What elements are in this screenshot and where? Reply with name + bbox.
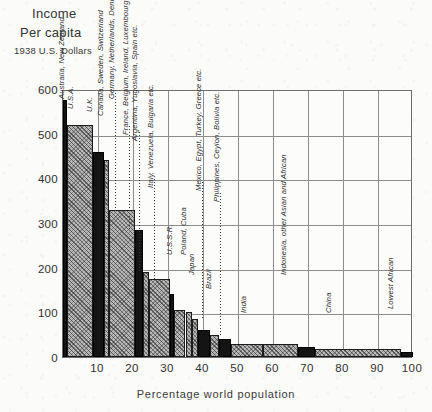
bar-label: Philippines, Ceylon, Bolivia etc.	[212, 91, 221, 201]
bar	[401, 352, 413, 357]
bar-label: U.K.	[85, 96, 94, 111]
x-axis-tick-label: 30	[147, 362, 187, 374]
label-leader-line	[202, 182, 203, 320]
y-axis-tick-label: 0	[0, 352, 58, 364]
bar-label: Italy, Venezuela, Bulgaria etc.	[146, 84, 155, 188]
bar-label: France, Belgium, Ireland, Luxembourg	[121, 0, 130, 135]
bar-label: Canada, Sweden, Switzerland	[96, 10, 105, 116]
label-leader-line	[139, 132, 140, 273]
bar	[174, 310, 185, 357]
label-leader-line	[129, 126, 130, 231]
bar-label: Japan	[187, 254, 196, 275]
bar-label: Germany, Netherlands, Denmark, Norway	[107, 0, 116, 99]
gridline-vertical	[238, 91, 239, 357]
bar	[149, 279, 170, 357]
x-axis-title: Percentage world population	[0, 388, 432, 400]
bar	[231, 344, 263, 357]
bar-label: Lowest African	[386, 257, 395, 309]
chart-page: Income Per capita 1938 U.S. Dollars Perc…	[0, 0, 432, 412]
y-axis-tick-label: 100	[0, 307, 58, 319]
bar	[93, 152, 105, 357]
bar-label: Argentina, Yugoslavia, Spain etc.	[130, 25, 139, 141]
chart-title-block: Income Per capita 1938 U.S. Dollars	[14, 6, 92, 56]
bar-label: U.S.A.	[66, 86, 75, 109]
bar	[198, 330, 210, 357]
bar-label: China	[324, 293, 333, 314]
bar-label: U.S.S.R.	[165, 225, 174, 256]
bar	[315, 349, 401, 357]
x-axis-tick-label: 70	[287, 362, 327, 374]
bar-label: Australia, New Zealand	[57, 17, 66, 99]
bar-label: Indonesia, other Asian and African	[279, 155, 288, 276]
x-axis-tick-label: 40	[182, 362, 222, 374]
bar-label: Brazil	[204, 269, 213, 289]
bar	[298, 347, 316, 357]
gridline-vertical	[308, 91, 309, 357]
x-axis-tick-label: 20	[112, 362, 152, 374]
y-axis-tick-label: 400	[0, 173, 58, 185]
bar	[210, 335, 219, 357]
y-axis-tick-label: 500	[0, 129, 58, 141]
bar	[263, 344, 298, 357]
gridline-vertical	[273, 91, 274, 357]
chart-title-units: 1938 U.S. Dollars	[14, 45, 92, 56]
x-axis-tick-label: 60	[252, 362, 292, 374]
x-axis-tick-label: 10	[77, 362, 117, 374]
bar-label: Poland, Cuba	[179, 208, 188, 256]
x-axis-tick-label: 80	[322, 362, 362, 374]
label-leader-line	[115, 90, 116, 211]
x-axis-tick-label: 90	[357, 362, 397, 374]
bar-label: India	[239, 296, 248, 313]
y-axis-tick-label: 600	[0, 84, 58, 96]
x-axis-tick-label: 50	[217, 362, 257, 374]
y-axis-tick-label: 200	[0, 263, 58, 275]
label-leader-line	[220, 193, 221, 336]
bar	[219, 339, 231, 357]
chart-title-line2: Per capita	[20, 25, 92, 40]
bar	[67, 125, 93, 357]
label-leader-line	[154, 179, 155, 280]
gridline-vertical	[378, 91, 379, 357]
gridline-vertical	[343, 91, 344, 357]
x-axis-tick-label: 100	[392, 362, 432, 374]
bar	[109, 210, 135, 357]
y-axis-tick-label: 300	[0, 218, 58, 230]
bar-label: Mexico, Egypt, Turkey, Greece etc.	[194, 68, 203, 191]
